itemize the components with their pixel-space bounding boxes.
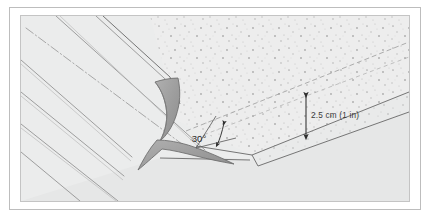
roof-edge-diagram: 30° 2.5 cm (1 in) — [0, 0, 430, 217]
figure-root: 30° 2.5 cm (1 in) — [0, 0, 430, 217]
thickness-dimension-label: 2.5 cm (1 in) — [311, 111, 359, 120]
cut-angle-label: 30° — [192, 133, 207, 144]
